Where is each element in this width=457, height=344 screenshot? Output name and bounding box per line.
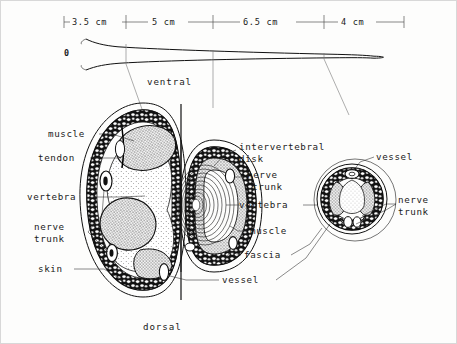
label-vessel-right: vessel — [376, 151, 413, 162]
right-vertebra-core — [340, 180, 365, 214]
scale-segment-label-2: 6.5 cm — [243, 17, 278, 27]
figure-root: 3.5 cm 5 cm 6.5 cm 4 cm 0 — [0, 0, 457, 344]
scale-bar: 3.5 cm 5 cm 6.5 cm 4 cm — [64, 15, 404, 29]
label-nerve-trunk-middle-line1: nerve — [247, 169, 278, 180]
right-nerve-trunk-a — [344, 217, 352, 228]
middle-nerve-trunk — [225, 169, 234, 183]
label-nerve-trunk-left-line2: trunk — [34, 233, 65, 244]
zero-marker-label: 0 — [64, 48, 70, 58]
label-nerve-trunk-right-line2: trunk — [398, 206, 429, 217]
label-skin-left: skin — [38, 263, 63, 274]
label-intervertebral-disk-line2: disk — [239, 153, 264, 164]
label-fascia-middle: fascia — [244, 249, 281, 260]
label-nerve-trunk-left-line1: nerve — [34, 221, 65, 232]
orientation-label-dorsal: dorsal — [143, 321, 182, 332]
label-vessel-middle: vessel — [222, 274, 259, 285]
left-vessel — [159, 264, 168, 281]
label-tendon-left: tendon — [38, 152, 75, 163]
left-cross-section — [80, 103, 186, 300]
label-muscle-left: muscle — [48, 128, 85, 139]
orientation-label-ventral: ventral — [147, 76, 192, 87]
middle-vessel — [229, 237, 237, 250]
label-muscle-middle: muscle — [250, 225, 287, 236]
label-intervertebral-disk-line1: intervertebral — [239, 141, 325, 152]
right-cross-section — [314, 159, 396, 241]
anatomy-diagram-svg: 3.5 cm 5 cm 6.5 cm 4 cm 0 — [0, 0, 457, 344]
scale-segment-label-1: 5 cm — [152, 17, 176, 27]
leader-to-right-section — [324, 59, 349, 115]
scale-segment-label-0: 3.5 cm — [72, 17, 107, 27]
label-vertebra-middle: vertebra — [239, 199, 288, 210]
label-vertebra-left: vertebra — [27, 191, 76, 202]
leader-to-left-section — [126, 64, 143, 112]
label-nerve-trunk-middle-line2: trunk — [252, 181, 283, 192]
scale-segment-label-3: 4 cm — [341, 17, 365, 27]
label-nerve-trunk-right-line1: nerve — [398, 194, 429, 205]
